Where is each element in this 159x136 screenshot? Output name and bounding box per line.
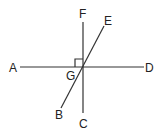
geometry-diagram: A D F E G B C: [0, 0, 159, 136]
label-B: B: [55, 108, 63, 122]
label-D: D: [145, 61, 154, 75]
label-C: C: [79, 117, 88, 131]
label-A: A: [9, 61, 17, 75]
right-angle-marker: [75, 59, 83, 67]
label-F: F: [79, 7, 86, 21]
diagram-canvas: A D F E G B C: [0, 0, 159, 136]
label-E: E: [104, 14, 112, 28]
label-G: G: [66, 69, 75, 83]
